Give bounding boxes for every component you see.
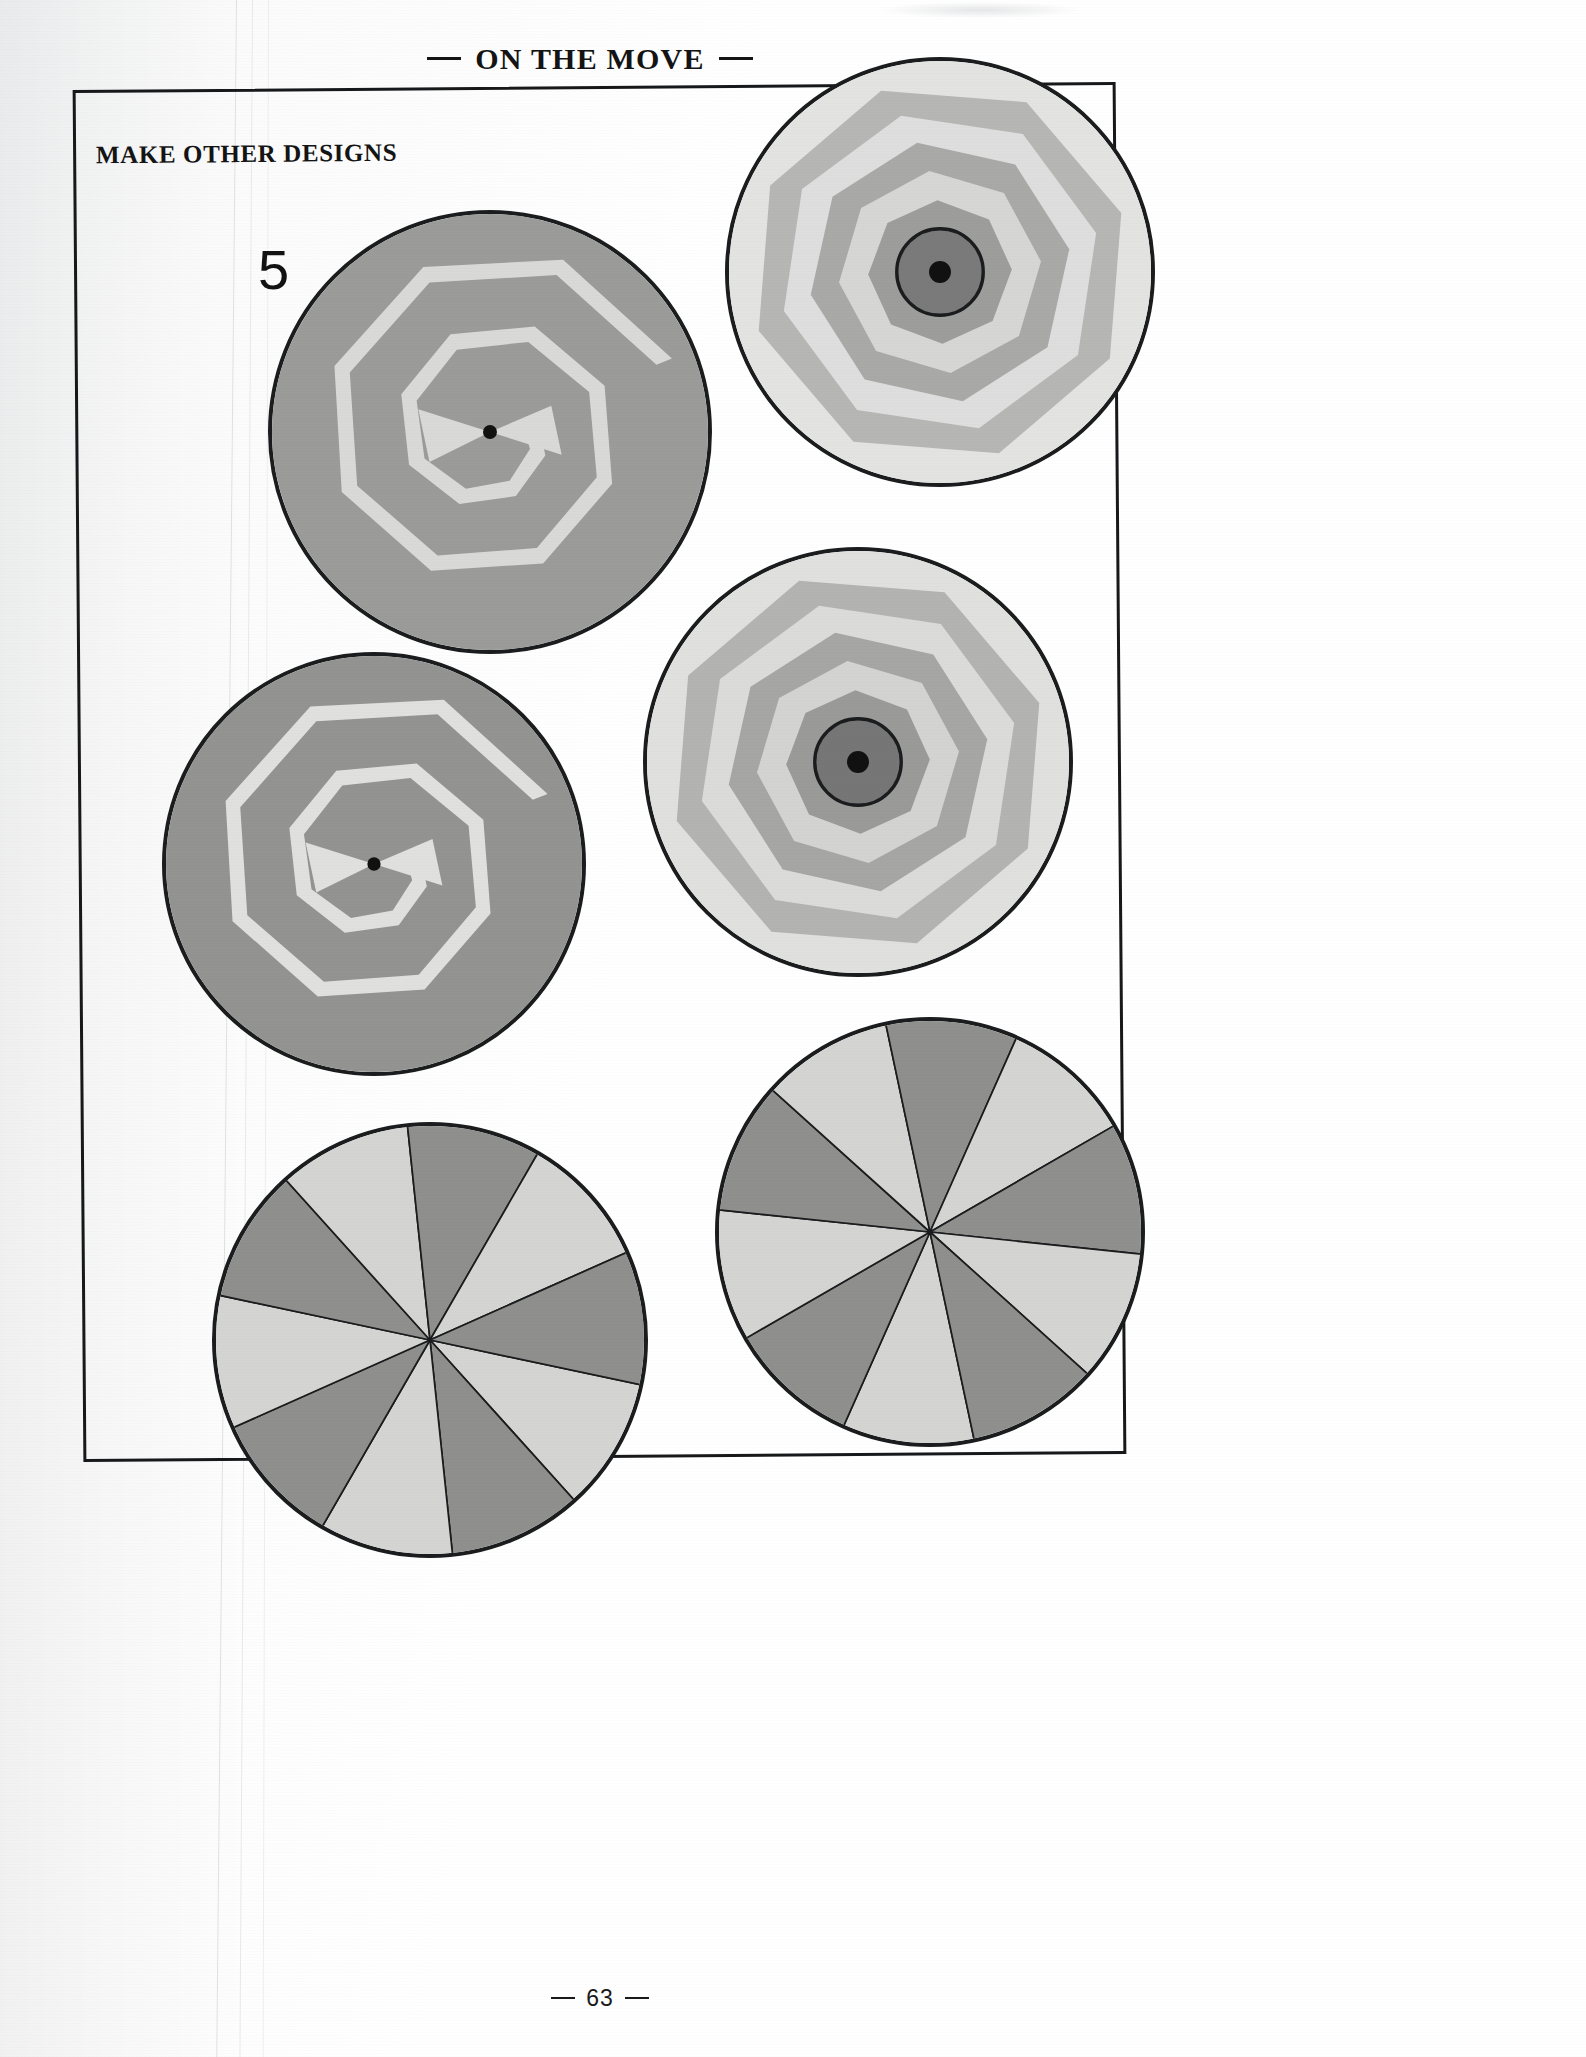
running-head-label: ON THE MOVE bbox=[475, 42, 704, 75]
rule-left-icon bbox=[551, 1997, 575, 1999]
rule-right-icon bbox=[625, 1997, 649, 1999]
disc-pinwheel-bottom-right bbox=[715, 1017, 1145, 1447]
disc-rings-top-right bbox=[725, 57, 1155, 487]
page-footer: 63 bbox=[0, 1985, 1200, 2012]
disc-spiral-top-left bbox=[268, 210, 712, 654]
page-number: 63 bbox=[586, 1985, 614, 2011]
disc-pinwheel-bottom-left bbox=[212, 1122, 648, 1558]
disc-rings-mid-right bbox=[643, 547, 1073, 977]
section-heading: MAKE OTHER DESIGNS bbox=[96, 139, 397, 170]
step-number: 5 bbox=[258, 242, 289, 298]
book-page: ON THE MOVE MAKE OTHER DESIGNS 5 63 bbox=[0, 0, 1586, 2057]
rule-right-icon bbox=[719, 57, 753, 60]
disc-spiral-mid-left bbox=[162, 652, 586, 1076]
rule-left-icon bbox=[427, 57, 461, 60]
